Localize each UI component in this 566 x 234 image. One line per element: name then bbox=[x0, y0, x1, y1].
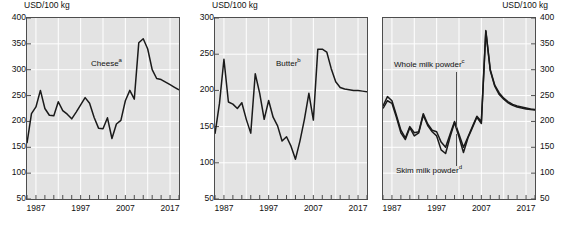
y-tick-label: 350 bbox=[540, 39, 554, 48]
footnote-marker: b bbox=[297, 57, 300, 63]
y-tick-label: 200 bbox=[200, 85, 214, 94]
y-tick-label: 50 bbox=[17, 194, 26, 203]
y-tick-label: 150 bbox=[200, 122, 214, 131]
panel-milk-powder: USD/100 kg 50100150200250300350400 19871… bbox=[376, 0, 566, 234]
x-tick-label: 1997 bbox=[259, 203, 278, 213]
y-tick-label: 200 bbox=[12, 116, 26, 125]
panel-cheese-axis-unit-label: USD/100 kg bbox=[24, 0, 70, 11]
footnote-marker: c bbox=[462, 58, 465, 64]
y-tick-label: 400 bbox=[540, 13, 554, 22]
x-tick-label: 2007 bbox=[116, 203, 135, 213]
y-tick-label: 150 bbox=[12, 142, 26, 151]
panel-cheese: USD/100 kg 50100150200250300350400 19871… bbox=[0, 0, 188, 234]
y-tick-label: 100 bbox=[200, 158, 214, 167]
y-tick-label: 250 bbox=[200, 49, 214, 58]
x-tick-label: 2007 bbox=[472, 203, 491, 213]
x-tick-label: 1987 bbox=[214, 203, 233, 213]
dairy-prices-figure: USD/100 kg 50100150200250300350400 19871… bbox=[0, 0, 566, 234]
series-label-cheese: Cheesea bbox=[91, 59, 122, 69]
y-tick-label: 50 bbox=[205, 194, 214, 203]
panel-butter: USD/100 kg 50100150200250300 19871997200… bbox=[188, 0, 376, 234]
y-tick-label: 250 bbox=[12, 91, 26, 100]
y-tick-label: 300 bbox=[200, 13, 214, 22]
y-tick-label: 350 bbox=[12, 39, 26, 48]
annotation-leader-line bbox=[456, 134, 457, 166]
footnote-marker: d bbox=[459, 164, 462, 170]
panel-milk-powder-y-axis-labels: 50100150200250300350400 bbox=[540, 0, 566, 234]
footnote-marker: a bbox=[119, 57, 122, 63]
y-tick-label: 150 bbox=[540, 142, 554, 151]
x-tick-label: 2017 bbox=[517, 203, 536, 213]
panel-cheese-y-axis-labels: 50100150200250300350400 bbox=[0, 0, 26, 234]
panel-butter-plot-area bbox=[214, 17, 368, 200]
x-tick-label: 1997 bbox=[71, 203, 90, 213]
series-label-butter: Butterb bbox=[276, 59, 301, 69]
panel-milk-powder-x-axis-labels: 1987199720072017 bbox=[376, 203, 566, 217]
series-label-skim-milk-powder: Skim milk powderd bbox=[396, 166, 462, 176]
x-tick-label: 2017 bbox=[349, 203, 368, 213]
y-tick-label: 200 bbox=[540, 116, 554, 125]
x-tick-label: 2007 bbox=[304, 203, 323, 213]
y-tick-label: 300 bbox=[12, 65, 26, 74]
panel-cheese-plot-area bbox=[26, 17, 180, 200]
panel-cheese-x-axis-labels: 1987199720072017 bbox=[0, 203, 188, 217]
y-tick-label: 50 bbox=[540, 194, 549, 203]
series-label-whole-milk-powder: Whole milk powderc bbox=[394, 60, 465, 70]
x-tick-label: 2017 bbox=[161, 203, 180, 213]
y-tick-label: 250 bbox=[540, 91, 554, 100]
panel-butter-x-axis-labels: 1987199720072017 bbox=[188, 203, 376, 217]
annotation-leader-line bbox=[456, 72, 457, 128]
y-tick-label: 100 bbox=[540, 168, 554, 177]
x-tick-label: 1987 bbox=[382, 203, 401, 213]
x-tick-label: 1987 bbox=[26, 203, 45, 213]
y-tick-label: 300 bbox=[540, 65, 554, 74]
panel-butter-axis-unit-label: USD/100 kg bbox=[212, 0, 258, 11]
y-tick-label: 400 bbox=[12, 13, 26, 22]
x-tick-label: 1997 bbox=[427, 203, 446, 213]
panel-butter-y-axis-labels: 50100150200250300 bbox=[188, 0, 214, 234]
y-tick-label: 100 bbox=[12, 168, 26, 177]
